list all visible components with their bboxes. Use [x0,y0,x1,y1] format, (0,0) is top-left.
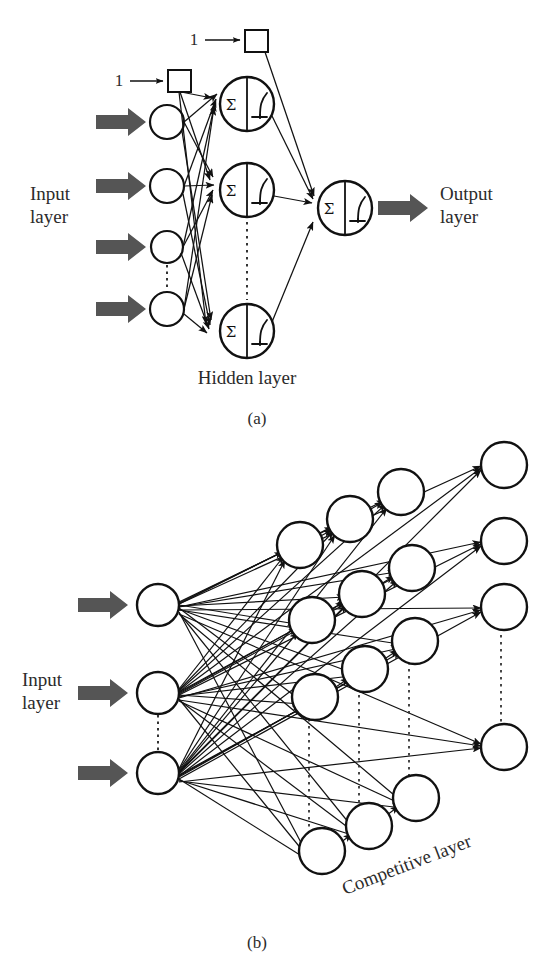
hidden-neuron[interactable] [220,77,274,131]
competitive-node[interactable] [393,775,439,821]
competitive-node[interactable] [299,828,345,874]
hidden-layer-label: Hidden layer [198,367,297,388]
input-node[interactable] [150,105,184,139]
hidden-neuron[interactable] [220,163,274,217]
input-node[interactable] [137,752,179,794]
competitive-node[interactable] [378,469,424,515]
figure-root: Σ 1 1 [0,0,549,965]
output-layer-label-line2: layer [440,206,479,227]
competitive-node[interactable] [342,646,388,692]
output-neuron-wrap [318,181,372,235]
hidden-neuron[interactable] [220,304,274,358]
competitive-node[interactable] [481,584,527,630]
input-node[interactable] [151,231,183,263]
bias-label-output: 1 [190,30,199,49]
competitive-node[interactable] [481,518,527,564]
competitive-node[interactable] [289,597,335,643]
input-node[interactable] [150,169,184,203]
competitive-node[interactable] [389,545,435,591]
competitive-node[interactable] [292,674,338,720]
output-layer-label-line1: Output [440,183,494,204]
input-node[interactable] [137,672,179,714]
bias-label-hidden: 1 [115,71,124,90]
bias-node-output[interactable] [245,30,268,52]
input-node[interactable] [150,292,184,326]
input-layer-label-line2: layer [30,206,69,227]
competitive-node[interactable] [392,618,438,664]
output-neuron[interactable] [318,181,372,235]
competitive-node[interactable] [327,496,373,542]
competitive-node[interactable] [277,522,323,568]
input-node-group-b [137,584,179,794]
panel-b-caption: (b) [247,933,267,952]
competitive-node[interactable] [481,724,527,770]
input-node[interactable] [137,584,179,626]
competitive-node[interactable] [481,442,527,488]
input-layer-label-line2-b: layer [22,692,61,713]
bias-node-hidden[interactable] [168,70,191,92]
input-layer-label-line1-b: Input [22,669,63,690]
network-diagram-svg: Σ 1 1 [0,0,549,965]
panel-a-caption: (a) [248,409,267,428]
input-layer-label-line1: Input [30,183,71,204]
competitive-node[interactable] [346,803,392,849]
competitive-node[interactable] [339,571,385,617]
